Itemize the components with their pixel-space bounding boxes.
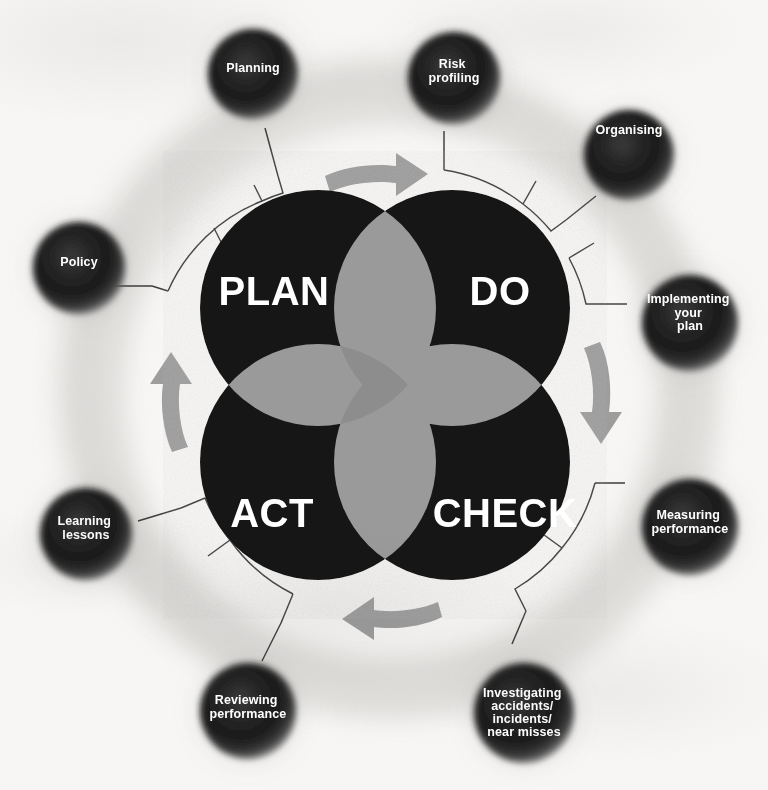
node-policy-label: Policy — [60, 255, 97, 269]
node-risk-profiling[interactable]: Risk profiling — [400, 24, 508, 132]
quadrant-label-do: DO — [470, 269, 531, 313]
node-policy[interactable]: Policy — [25, 214, 133, 322]
node-learning-lessons[interactable]: Learning lessons — [32, 480, 140, 588]
arrow-left-icon — [150, 352, 192, 452]
node-reviewing-performance-label: Reviewing performance — [210, 693, 287, 721]
stem-organising — [566, 196, 596, 220]
node-reviewing-performance[interactable]: Reviewing performance — [192, 655, 304, 767]
node-implementing-your-plan[interactable]: Implementing your plan — [634, 267, 746, 379]
arrow-top-icon — [325, 153, 428, 196]
ring-divider-4 — [208, 540, 230, 556]
node-planning[interactable]: Planning — [201, 22, 305, 126]
node-learning-lessons-label: Learning lessons — [57, 514, 114, 542]
arrow-bottom-icon — [342, 597, 442, 640]
node-investigating-accidents[interactable]: Investigating accidents/ incidents/ near… — [466, 655, 582, 771]
ring-segment-right — [569, 243, 608, 304]
ring-divider-2 — [523, 181, 536, 204]
node-measuring-performance-label: Measuring performance — [652, 508, 729, 536]
node-organising[interactable]: Organising — [577, 103, 681, 207]
node-organising-label: Organising — [596, 123, 663, 137]
quadrant-label-plan: PLAN — [219, 269, 330, 313]
pdca-diagram-canvas: PLAN DO ACT CHECK Planning Risk profilin… — [0, 0, 768, 790]
quadrant-label-act: ACT — [230, 491, 314, 535]
arrow-right-icon — [580, 342, 622, 444]
node-measuring-performance[interactable]: Measuring performance — [634, 471, 746, 583]
node-planning-label: Planning — [226, 61, 280, 75]
quadrant-label-check: CHECK — [433, 491, 578, 535]
node-investigating-accidents-label: Investigating accidents/ incidents/ near… — [483, 686, 565, 739]
pdca-diagram-svg: PLAN DO ACT CHECK Planning Risk profilin… — [0, 0, 768, 790]
